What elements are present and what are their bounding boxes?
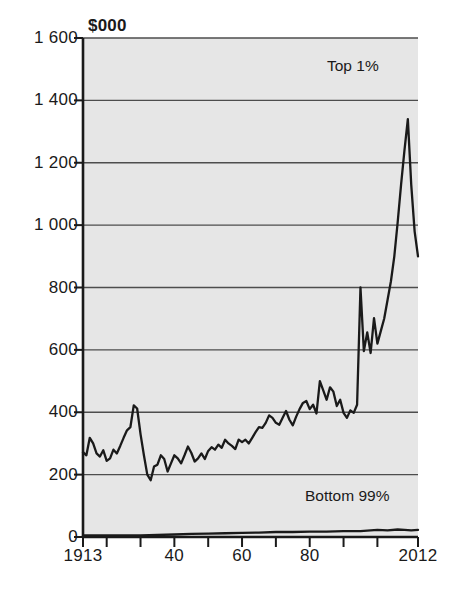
- x-axis-tick-label: 2012: [398, 546, 437, 566]
- y-axis-tick-label: 600: [6, 340, 78, 360]
- y-axis-tick-label: 1 200: [6, 153, 78, 173]
- x-axis-tick-label: 1913: [63, 546, 102, 566]
- y-axis-tick-label: 800: [6, 278, 78, 298]
- y-axis-tick-label: 1 600: [6, 28, 78, 48]
- series-label-top-1-percent: Top 1%: [327, 57, 379, 75]
- y-axis-tick-label: 400: [6, 402, 78, 422]
- x-axis-tick-label: 80: [300, 546, 320, 566]
- y-axis-tick-label: 1 400: [6, 90, 78, 110]
- y-axis-unit-label: $000: [88, 16, 127, 36]
- y-axis-tick-labels: 02004006008001 0001 2001 4001 600: [0, 0, 78, 600]
- series-label-bottom-99-percent: Bottom 99%: [305, 487, 389, 505]
- y-axis-tick-label: 0: [6, 527, 78, 547]
- x-axis-tick-label: 40: [165, 546, 185, 566]
- x-axis-tick-label: 60: [232, 546, 252, 566]
- y-axis-tick-label: 200: [6, 465, 78, 485]
- y-axis-tick-label: 1 000: [6, 215, 78, 235]
- chart-container: $000 02004006008001 0001 2001 4001 600 1…: [0, 0, 456, 600]
